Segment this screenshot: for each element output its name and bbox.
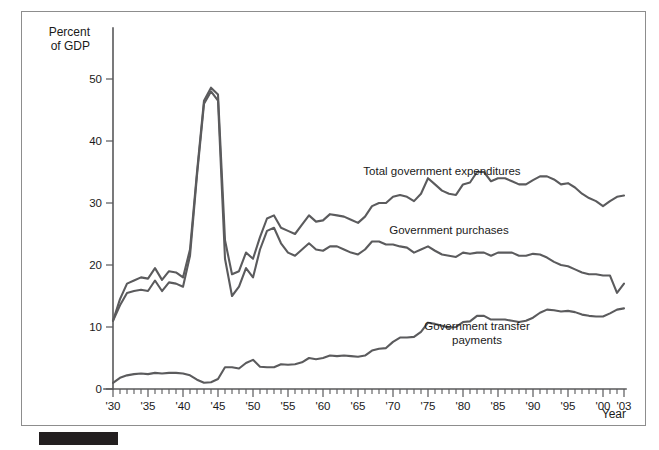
line-chart: 01020304050 '30'35'40'45'50'55'60'65'70'… xyxy=(0,0,659,450)
y-axis-tick-labels: 01020304050 xyxy=(89,73,102,395)
x-tick-label: '40 xyxy=(176,400,191,412)
y-tick-label: 30 xyxy=(89,197,102,209)
series-label-2: Government transfer xyxy=(424,320,530,332)
y-tick-label: 0 xyxy=(96,383,102,395)
series-line-1 xyxy=(113,91,624,320)
x-tick-label: '85 xyxy=(491,400,506,412)
y-tick-label: 10 xyxy=(89,321,102,333)
figure-container: 01020304050 '30'35'40'45'50'55'60'65'70'… xyxy=(0,0,659,450)
y-tick-label: 50 xyxy=(89,73,102,85)
x-tick-label: '65 xyxy=(351,400,366,412)
series-label-2-line2: payments xyxy=(452,334,502,346)
data-series xyxy=(113,88,624,383)
y-axis-title-line1: Percent xyxy=(49,25,91,39)
x-tick-label: '35 xyxy=(141,400,156,412)
x-tick-label: '75 xyxy=(421,400,436,412)
series-label-0: Total government expenditures xyxy=(363,165,521,177)
x-tick-label: '95 xyxy=(561,400,576,412)
x-tick-label: '80 xyxy=(456,400,471,412)
series-label-1: Government purchases xyxy=(389,224,509,236)
x-tick-label: '90 xyxy=(526,400,541,412)
x-tick-label: '60 xyxy=(316,400,331,412)
x-tick-label: '45 xyxy=(211,400,226,412)
x-tick-label: '30 xyxy=(106,400,121,412)
x-axis-title: Year xyxy=(602,407,626,421)
series-line-0 xyxy=(113,88,624,321)
y-tick-label: 20 xyxy=(89,259,102,271)
x-axis-tick-labels: '30'35'40'45'50'55'60'65'70'75'80'85'90'… xyxy=(106,400,632,412)
tick-marks xyxy=(106,79,624,397)
series-line-2 xyxy=(113,308,624,382)
x-tick-label: '70 xyxy=(386,400,401,412)
y-tick-label: 40 xyxy=(89,135,102,147)
axes xyxy=(104,28,626,389)
x-tick-label: '50 xyxy=(246,400,261,412)
y-axis-title-line2: of GDP xyxy=(51,39,90,53)
x-tick-label: '55 xyxy=(281,400,296,412)
